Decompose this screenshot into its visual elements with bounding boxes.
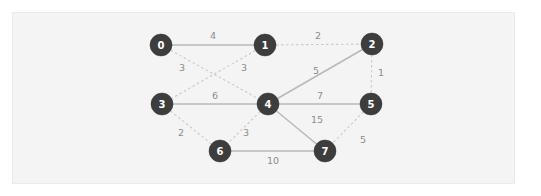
edge-1-2 [276, 44, 361, 45]
edge-weight-5-7: 5 [360, 134, 366, 145]
node-label-7: 7 [322, 146, 329, 157]
graph-node-5[interactable]: 5 [360, 93, 382, 115]
edge-5-7 [333, 112, 364, 143]
node-label-6: 6 [217, 146, 224, 157]
edge-weight-2-5: 1 [378, 67, 384, 78]
edge-weight-3-4: 6 [212, 90, 218, 101]
graph-node-7[interactable]: 7 [314, 140, 336, 162]
node-label-4: 4 [265, 99, 272, 110]
node-label-3: 3 [159, 99, 166, 110]
graph-node-4[interactable]: 4 [257, 93, 279, 115]
edge-2-5 [371, 55, 372, 93]
edge-3-6 [171, 111, 212, 144]
edge-weight-0-4: 3 [179, 62, 185, 73]
edge-weight-0-1: 4 [210, 30, 216, 41]
edge-weight-4-6: 3 [243, 127, 249, 138]
graph-node-2[interactable]: 2 [361, 33, 383, 55]
node-label-1: 1 [262, 40, 269, 51]
edge-weight-1-2: 2 [315, 30, 321, 41]
edge-weight-6-7: 10 [267, 155, 279, 166]
edge-weight-3-6: 2 [178, 127, 184, 138]
graph-node-6[interactable]: 6 [209, 140, 231, 162]
edge-weight-4-7: 15 [311, 114, 323, 125]
edge-weight-4-5: 7 [317, 90, 323, 101]
node-label-5: 5 [368, 99, 375, 110]
graph-figure-root: 423351672315510 01234567 [0, 0, 541, 196]
nodes-layer: 01234567 [150, 33, 383, 162]
edge-weight-2-4: 5 [313, 65, 319, 76]
weighted-graph-canvas: 423351672315510 01234567 [0, 0, 541, 196]
edge-labels-layer: 423351672315510 [178, 30, 384, 166]
graph-node-0[interactable]: 0 [150, 34, 172, 56]
graph-node-1[interactable]: 1 [254, 34, 276, 56]
node-label-2: 2 [369, 39, 376, 50]
edge-weight-1-3: 3 [241, 62, 247, 73]
node-label-0: 0 [158, 40, 165, 51]
graph-node-3[interactable]: 3 [151, 93, 173, 115]
